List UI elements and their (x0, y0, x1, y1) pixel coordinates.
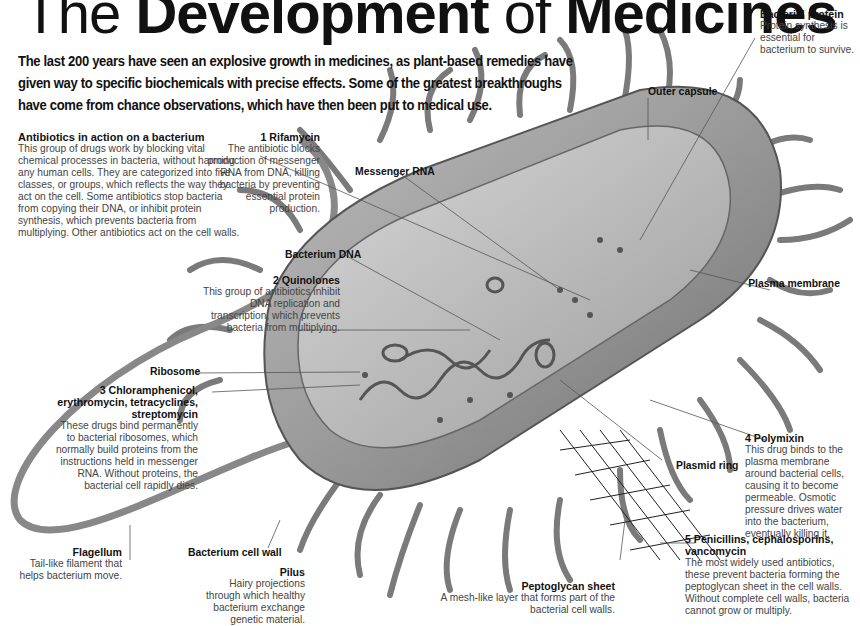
flagellum-heading: Flagellum (10, 546, 122, 558)
title-word: of (489, 0, 566, 45)
quinolones-body: This group of antibiotics inhibit DNA re… (200, 286, 340, 334)
polymixin-body: This drug binds to the plasma membrane a… (745, 444, 855, 540)
flagellum-body: Tail-like filament that helps bacterium … (10, 558, 122, 582)
intro-paragraph: The last 200 years have seen an explosiv… (18, 50, 579, 116)
chloramphenicol-number: 3 (100, 384, 106, 396)
page-title: The Development of Medicines (0, 0, 860, 48)
quinolones-heading: Quinolones (282, 274, 340, 286)
rifamycin-panel: 1 Rifamycin The antibiotic blocks produc… (200, 131, 320, 215)
chloramphenicol-body: These drugs bind permanently to bacteria… (50, 420, 198, 492)
label-messenger-rna: Messenger RNA (355, 166, 435, 178)
label-plasma-membrane: Plasma membrane (740, 278, 840, 290)
penicillins-panel: 5 Penicillins, cephalosporins, vancomyci… (685, 533, 855, 617)
quinolones-panel: 2 Quinolones This group of antibiotics i… (200, 274, 340, 334)
bacterial-protein-panel: Bacterial protein Protein synthesis is e… (760, 8, 860, 56)
bacterial-protein-heading: Bacterial protein (760, 8, 860, 20)
peptoglycan-body: A mesh-like layer that forms part of the… (440, 592, 615, 616)
label-bacterium-cell-wall: Bacterium cell wall (188, 547, 282, 559)
pilus-body: Hairy projections through which healthy … (200, 578, 305, 626)
penicillins-body: The most widely used antibiotics, these … (685, 557, 855, 617)
penicillins-heading: Penicillins, cephalosporins, vancomycin (685, 533, 833, 557)
rifamycin-heading: Rifamycin (269, 131, 320, 143)
bacterial-protein-body: Protein synthesis is essential for bacte… (760, 20, 860, 56)
polymixin-panel: 4 Polymixin This drug binds to the plasm… (745, 432, 855, 540)
rifamycin-body: The antibiotic blocks production of mess… (200, 143, 320, 215)
flagellum-panel: Flagellum Tail-like filament that helps … (10, 546, 122, 582)
peptoglycan-heading: Peptoglycan sheet (440, 580, 615, 592)
chloramphenicol-panel: 3 Chloramphenicol, erythromycin, tetracy… (50, 384, 198, 492)
label-outer-capsule: Outer capsule (648, 86, 717, 98)
title-word: Development (135, 0, 488, 45)
penicillins-number: 5 (685, 533, 691, 545)
label-ribosome: Ribosome (150, 366, 200, 378)
label-plasmid-ring: Plasmid ring (676, 460, 738, 472)
rifamycin-number: 1 (261, 131, 267, 143)
title-word: The (23, 0, 135, 45)
peptoglycan-panel: Peptoglycan sheet A mesh-like layer that… (440, 580, 615, 616)
label-bacterium-dna: Bacterium DNA (285, 249, 361, 261)
chloramphenicol-heading: Chloramphenicol, erythromycin, tetracycl… (57, 384, 198, 420)
polymixin-number: 4 (745, 432, 751, 444)
pilus-panel: Pilus Hairy projections through which he… (200, 566, 305, 626)
quinolones-number: 2 (273, 274, 279, 286)
pilus-heading: Pilus (200, 566, 305, 578)
polymixin-heading: Polymixin (754, 432, 804, 444)
